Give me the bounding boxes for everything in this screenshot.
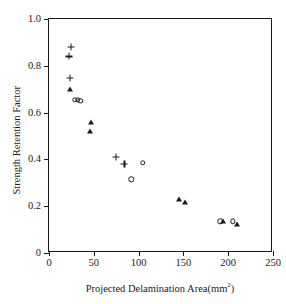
y-tick-label: 0.8: [28, 61, 41, 72]
x-tick-label: 200: [220, 258, 236, 269]
y-tick-label: 0.2: [28, 201, 41, 212]
y-tick-mark: [44, 113, 49, 114]
data-point-plus: [67, 44, 74, 51]
data-point-triangle: [182, 199, 188, 204]
y-tick-mark: [44, 206, 49, 207]
x-tick-label: 50: [89, 258, 100, 269]
scatter-chart-figure: 00.20.40.60.81.0 050100150200250 Project…: [0, 0, 286, 304]
x-axis-label-main: Projected Delamination Area(mm: [86, 283, 228, 294]
data-point-circle: [72, 97, 77, 102]
data-point-circle: [230, 219, 235, 224]
y-tick-label: 1.0: [28, 14, 41, 25]
y-tick-mark: [44, 19, 49, 20]
x-tick-label: 0: [46, 258, 51, 269]
data-point-circle: [140, 160, 145, 165]
data-point-triangle: [220, 219, 226, 224]
x-axis-label: Projected Delamination Area(mm2): [48, 282, 272, 294]
data-point-triangle: [88, 119, 94, 124]
data-point-triangle: [234, 221, 240, 226]
data-point-plus: [66, 74, 73, 81]
y-axis-label: Strength Retention Factor: [12, 70, 23, 210]
x-tick-label: 150: [176, 258, 192, 269]
data-point-triangle: [176, 197, 182, 202]
x-tick-mark: [94, 251, 95, 256]
x-tick-mark: [273, 251, 274, 256]
y-tick-label: 0.4: [28, 154, 41, 165]
y-tick-mark: [44, 159, 49, 160]
x-tick-mark: [139, 251, 140, 256]
y-tick-label: 0.6: [28, 107, 41, 118]
x-tick-label: 100: [131, 258, 147, 269]
data-point-triangle: [87, 129, 93, 134]
x-tick-mark: [49, 251, 50, 256]
data-point-plus: [121, 161, 128, 168]
plot-area: 00.20.40.60.81.0 050100150200250: [48, 18, 272, 252]
data-point-triangle: [67, 87, 73, 92]
data-point-plus: [65, 53, 72, 60]
data-point-circle: [78, 98, 83, 103]
data-point-plus: [113, 154, 120, 161]
data-point-circle: [75, 97, 80, 102]
x-tick-mark: [183, 251, 184, 256]
data-point-circle: [217, 219, 222, 224]
y-tick-label: 0: [36, 248, 41, 259]
x-tick-label: 250: [265, 258, 281, 269]
x-tick-mark: [228, 251, 229, 256]
x-axis-label-tail: ): [231, 283, 235, 294]
y-tick-mark: [44, 66, 49, 67]
data-point-circle: [129, 177, 134, 182]
